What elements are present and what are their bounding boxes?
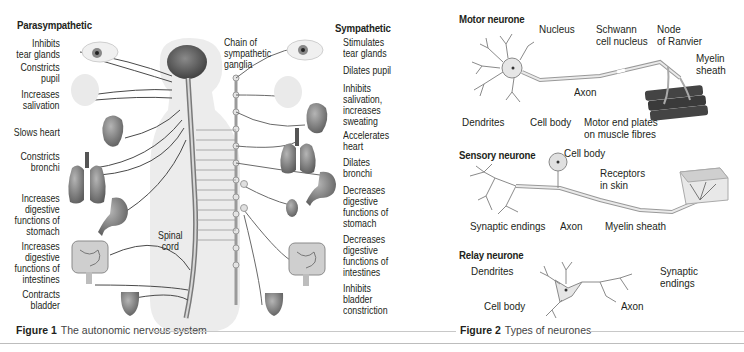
relay-axon-label: Axon [621,300,644,312]
sensory-neurone-diagram [470,153,700,214]
motor-cell-body-label: Cell body [530,116,571,128]
parasym-heart-icon [102,115,123,146]
parasympathetic-heading: Parasympathetic [17,19,92,31]
sensory-axon-label: Axon [560,220,583,232]
relay-dendrites-label: Dendrites [471,265,513,277]
brain-icon [167,45,207,79]
sym-eye-icon [287,40,323,60]
relay-neurone-diagram [540,262,632,318]
para-label-heart: Slows heart [14,127,60,138]
relay-cell-body-label: Cell body [484,300,525,312]
figure1-caption-number: Figure 1 [16,324,57,336]
figure2-caption: Figure 2Types of neurones [460,324,591,336]
para-label-pupil: Constricts pupil [21,62,60,84]
figure1-caption: Figure 1The autonomic nervous system [16,324,207,336]
motor-dendrites-label: Dendrites [462,116,504,128]
sensory-receptors-label: Receptors in skin [600,167,645,191]
sym-label-heart: Accelerates heart [343,130,389,152]
motor-neurone-heading: Motor neurone [459,13,524,25]
parasym-lungs-icon [68,152,105,204]
parasym-stomach-icon [98,198,128,237]
sym-heart-icon [306,103,327,133]
para-label-intestines: Increases digestive functions of intesti… [15,241,60,285]
page-bottom-rule [0,343,744,344]
motor-schwann-label: Schwann cell nucleus [596,23,648,47]
sym-bladder-icon [265,293,283,316]
sensory-cell-body-label: Cell body [564,147,605,159]
figure2-caption-text: Types of neurones [505,324,591,336]
sym-label-intestines: Decreases digestive functions of intesti… [343,234,388,278]
sym-lungs-icon [280,128,315,174]
figure2-caption-rule [590,331,744,332]
para-label-stomach: Increases digestive functions of stomach [15,193,60,237]
spinal-cord-label: Spinal cord [158,230,183,252]
chain-ganglia-label: Chain of sympathetic ganglia [224,37,271,70]
para-label-bronchi: Constricts bronchi [21,151,60,173]
parasym-intestines-icon [72,241,108,284]
motor-myelin-label: Myelin sheath [696,52,726,76]
relay-neurone-heading: Relay neurone [459,249,523,261]
motor-end-plates-label: Motor end plates on muscle fibres [584,116,658,140]
motor-node-label: Node of Ranvier [657,23,702,47]
sym-stomach-icon [306,172,336,206]
sensory-myelin-label: Myelin sheath [605,220,666,232]
parasym-eye-icon [82,42,118,62]
sym-label-salivation: Inhibits salivation, increases sweating [343,83,382,127]
para-label-tear: Inhibits tear glands [16,38,60,60]
figure2-caption-number: Figure 2 [460,324,501,336]
parasym-salivary-icon [71,74,99,106]
sym-label-bronchi: Dilates bronchi [343,157,372,179]
figure1-caption-text: The autonomic nervous system [61,324,207,336]
sym-label-bladder: Inhibits bladder constriction [343,283,388,316]
motor-nucleus-label: Nucleus [539,23,575,35]
sym-adrenal-icon [286,199,298,217]
figure1-caption-rule [150,331,456,332]
para-label-salivation: Increases salivation [22,89,60,111]
sym-intestines-icon [289,243,325,286]
para-label-bladder: Contracts bladder [22,289,60,311]
relay-synaptic-label: Synaptic endings [660,265,698,289]
sym-salivary-icon [274,76,302,108]
sym-label-tear: Stimulates tear glands [343,37,387,59]
sym-label-stomach: Decreases digestive functions of stomach [343,185,388,229]
skin-block-icon [680,168,728,204]
sensory-synaptic-label: Synaptic endings [470,220,545,232]
sym-label-pupil: Dilates pupil [343,65,391,76]
sympathetic-heading: Sympathetic [335,22,391,34]
parasym-bladder-icon [121,292,139,316]
motor-axon-label: Axon [574,86,597,98]
sensory-neurone-heading: Sensory neurone [459,149,535,161]
